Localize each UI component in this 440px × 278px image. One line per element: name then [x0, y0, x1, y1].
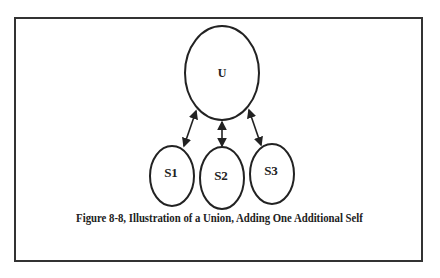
node-S3: S3 — [250, 144, 294, 204]
node-S3-label: S3 — [264, 163, 278, 178]
node-S1: S1 — [150, 146, 194, 206]
edge-U-S3 — [249, 110, 261, 145]
node-U-label: U — [218, 66, 227, 80]
figure-caption: Figure 8-8, Illustration of a Union, Add… — [43, 211, 396, 226]
node-S2-label: S2 — [214, 168, 228, 183]
node-U: U — [185, 26, 259, 120]
union-diagram: U S1 S2 S3 — [0, 0, 440, 278]
edge-U-S1 — [184, 111, 196, 146]
node-S1-label: S1 — [164, 165, 178, 180]
node-S2: S2 — [200, 147, 244, 209]
